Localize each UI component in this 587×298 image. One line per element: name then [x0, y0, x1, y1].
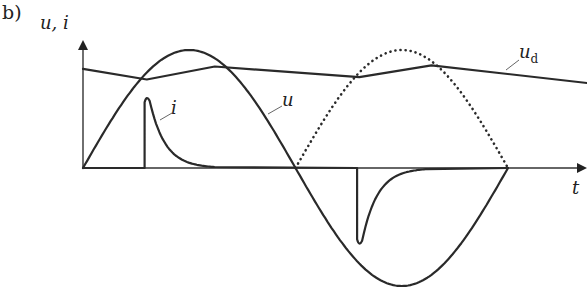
ud-label-main: u	[519, 41, 531, 62]
u-curve-label: u	[282, 89, 294, 110]
i-current-curve	[83, 98, 508, 243]
rectifier-waveform-diagram: b) u, i t i u ud	[0, 0, 587, 298]
ud-curve-label: ud	[519, 41, 539, 66]
ud-capacitor-voltage-curve	[83, 65, 587, 83]
rectified-voltage-dotted-curve	[296, 50, 509, 168]
panel-label: b)	[2, 1, 22, 23]
ud-label-subscript: d	[531, 52, 539, 66]
ud-label-leader	[506, 60, 519, 70]
x-axis-label: t	[572, 177, 580, 198]
u-label-leader	[268, 106, 282, 114]
i-curve-label: i	[171, 97, 177, 118]
y-axis-label: u, i	[40, 12, 69, 33]
